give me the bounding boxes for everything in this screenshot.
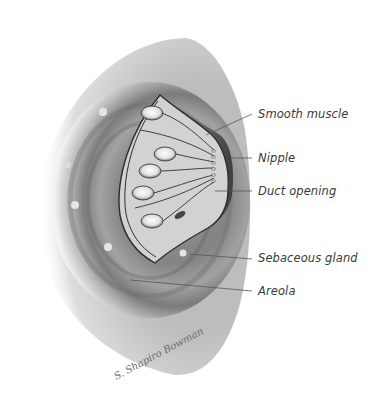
label-nipple: Nipple xyxy=(258,151,295,165)
label-smooth-muscle: Smooth muscle xyxy=(258,107,348,121)
label-areola: Areola xyxy=(258,284,296,298)
label-sebaceous-gland: Sebaceous gland xyxy=(258,251,358,265)
anatomy-illustration xyxy=(0,0,368,415)
label-duct-opening: Duct opening xyxy=(258,184,336,198)
